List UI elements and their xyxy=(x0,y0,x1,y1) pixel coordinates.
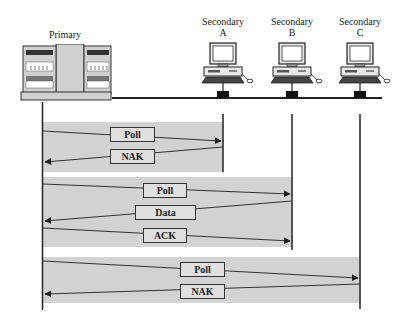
message-poll-b: Poll xyxy=(143,183,187,198)
desktop-computer-icon xyxy=(202,43,253,98)
message-poll-a: Poll xyxy=(110,127,155,142)
message-data-b: Data xyxy=(135,205,196,220)
message-nak-c: NAK xyxy=(180,284,225,299)
desktop-computer-icon xyxy=(271,43,322,98)
desktop-computer-icon xyxy=(339,43,390,98)
message-poll-c: Poll xyxy=(180,262,225,277)
message-ack-b: ACK xyxy=(143,228,187,243)
message-nak-a: NAK xyxy=(110,149,155,164)
